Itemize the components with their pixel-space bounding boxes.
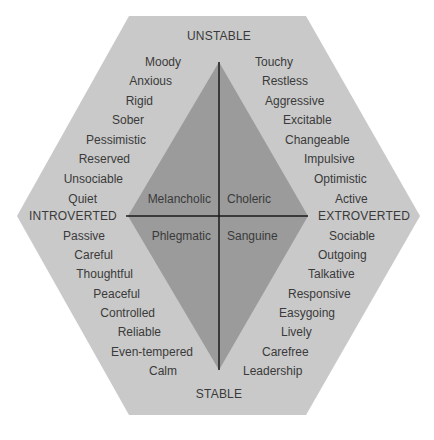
trait-label: Excitable bbox=[283, 113, 332, 127]
axis-label-extroverted: EXTROVERTED bbox=[318, 209, 410, 223]
trait-label: Anxious bbox=[129, 74, 172, 88]
trait-label: Calm bbox=[149, 364, 177, 378]
trait-label: Passive bbox=[63, 229, 105, 243]
trait-label: Carefree bbox=[262, 345, 309, 359]
trait-label: Reserved bbox=[79, 152, 130, 166]
trait-label: Quiet bbox=[68, 192, 97, 206]
axis-label-unstable: UNSTABLE bbox=[187, 29, 251, 43]
temperament-phlegmatic: Phlegmatic bbox=[152, 229, 211, 243]
trait-label: Leadership bbox=[243, 364, 302, 378]
axis-label-introverted: INTROVERTED bbox=[29, 209, 117, 223]
trait-label: Sober bbox=[112, 113, 144, 127]
trait-label: Changeable bbox=[285, 133, 350, 147]
trait-label: Optimistic bbox=[314, 172, 367, 186]
trait-label: Active bbox=[335, 192, 368, 206]
temperament-sanguine: Sanguine bbox=[227, 229, 278, 243]
temperament-choleric: Choleric bbox=[227, 192, 271, 206]
axis-label-stable: STABLE bbox=[196, 387, 242, 401]
trait-label: Moody bbox=[145, 55, 181, 69]
trait-label: Controlled bbox=[100, 306, 155, 320]
trait-label: Aggressive bbox=[265, 94, 324, 108]
trait-label: Impulsive bbox=[304, 152, 355, 166]
trait-label: Peaceful bbox=[93, 287, 140, 301]
trait-label: Even-tempered bbox=[111, 345, 193, 359]
trait-label: Pessimistic bbox=[86, 133, 146, 147]
trait-label: Unsociable bbox=[64, 172, 123, 186]
trait-label: Talkative bbox=[308, 267, 355, 281]
trait-label: Touchy bbox=[255, 55, 293, 69]
trait-label: Careful bbox=[74, 248, 113, 262]
trait-label: Thoughtful bbox=[76, 267, 133, 281]
trait-label: Restless bbox=[262, 74, 308, 88]
trait-label: Easygoing bbox=[279, 306, 335, 320]
trait-label: Lively bbox=[281, 325, 312, 339]
temperament-melancholic: Melancholic bbox=[148, 192, 211, 206]
trait-label: Rigid bbox=[126, 94, 153, 108]
trait-label: Outgoing bbox=[318, 248, 367, 262]
trait-label: Responsive bbox=[288, 287, 351, 301]
trait-label: Reliable bbox=[118, 325, 161, 339]
trait-label: Sociable bbox=[329, 229, 375, 243]
